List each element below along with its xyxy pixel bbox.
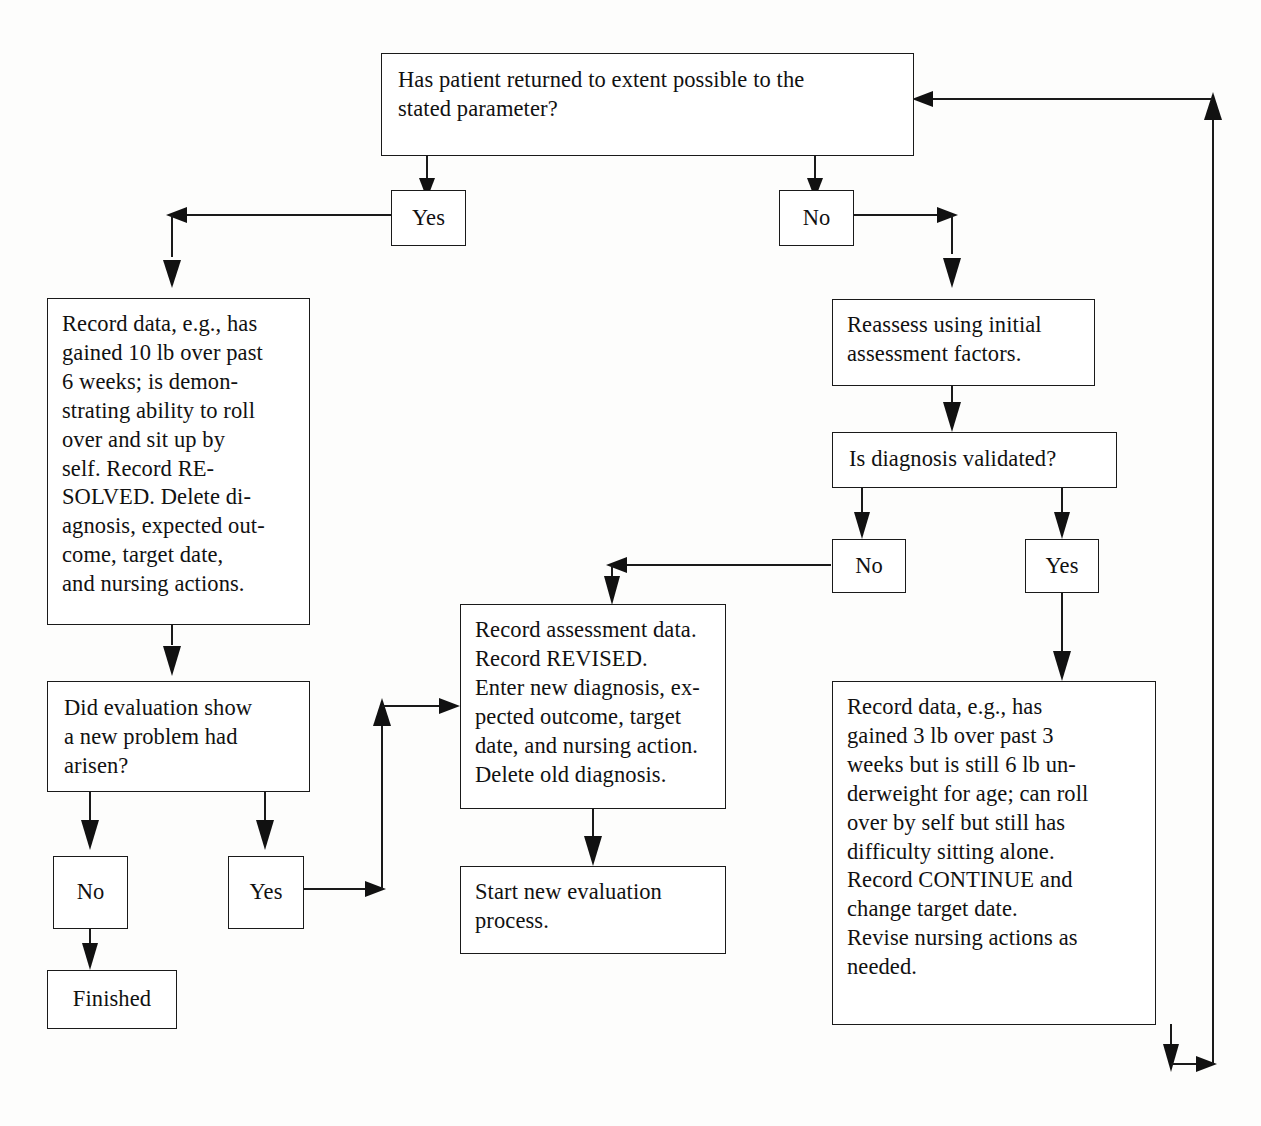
node-yes-top-label: Yes — [412, 204, 445, 233]
node-record-resolved-label: Record data, e.g., has gained 10 lb over… — [62, 310, 297, 599]
node-no-top-label: No — [803, 204, 831, 233]
node-record-resolved[interactable]: Record data, e.g., has gained 10 lb over… — [47, 298, 310, 625]
node-record-revised-label: Record assessment data. Record REVISED. … — [475, 616, 713, 789]
node-no-new-problem[interactable]: No — [53, 856, 128, 929]
node-yes-top[interactable]: Yes — [391, 190, 466, 246]
node-record-continue[interactable]: Record data, e.g., has gained 3 lb over … — [832, 681, 1156, 1025]
node-start-new-evaluation[interactable]: Start new evaluation process. — [460, 866, 726, 954]
node-question-diagnosis-validated[interactable]: Is diagnosis validated? — [832, 432, 1117, 488]
node-finished-label: Finished — [73, 985, 151, 1014]
node-finished[interactable]: Finished — [47, 970, 177, 1029]
node-record-continue-label: Record data, e.g., has gained 3 lb over … — [847, 693, 1143, 982]
node-no-validated-label: No — [855, 552, 883, 581]
node-no-validated[interactable]: No — [832, 539, 906, 593]
node-record-revised[interactable]: Record assessment data. Record REVISED. … — [460, 604, 726, 809]
node-question-returned[interactable]: Has patient returned to extent possible … — [381, 53, 914, 156]
node-reassess[interactable]: Reassess using initial assessment factor… — [832, 299, 1095, 386]
node-question-diagnosis-validated-label: Is diagnosis validated? — [849, 445, 1102, 474]
node-start-new-evaluation-label: Start new evaluation process. — [475, 878, 713, 936]
node-no-top[interactable]: No — [779, 190, 854, 246]
node-yes-new-problem-label: Yes — [249, 878, 282, 907]
node-question-new-problem-label: Did evaluation show a new problem had ar… — [64, 694, 295, 781]
node-yes-validated[interactable]: Yes — [1025, 539, 1099, 593]
node-yes-validated-label: Yes — [1045, 552, 1078, 581]
node-no-new-problem-label: No — [77, 878, 105, 907]
node-question-returned-label: Has patient returned to extent possible … — [398, 66, 899, 124]
node-yes-new-problem[interactable]: Yes — [228, 856, 304, 929]
node-reassess-label: Reassess using initial assessment factor… — [847, 311, 1082, 369]
flowchart-canvas: Has patient returned to extent possible … — [0, 0, 1261, 1126]
node-question-new-problem[interactable]: Did evaluation show a new problem had ar… — [47, 681, 310, 792]
